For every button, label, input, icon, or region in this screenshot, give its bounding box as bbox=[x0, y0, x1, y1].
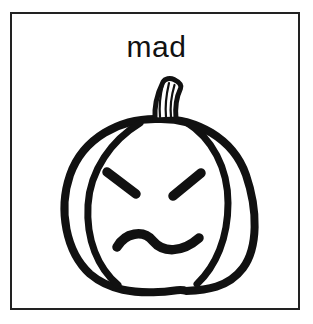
flashcard-canvas: mad bbox=[0, 0, 313, 324]
mad-pumpkin-illustration bbox=[0, 0, 313, 324]
